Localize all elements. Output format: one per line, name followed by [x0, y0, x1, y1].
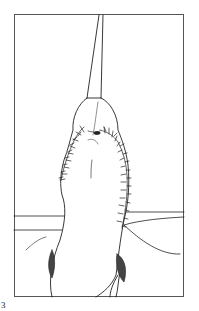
figure-label: 3	[1, 300, 6, 310]
suture-line-right	[88, 127, 131, 228]
shaded-tissue	[49, 250, 126, 282]
surgical-illustration	[0, 0, 199, 311]
drape-lines	[14, 212, 184, 254]
forceps-icon	[87, 15, 103, 98]
